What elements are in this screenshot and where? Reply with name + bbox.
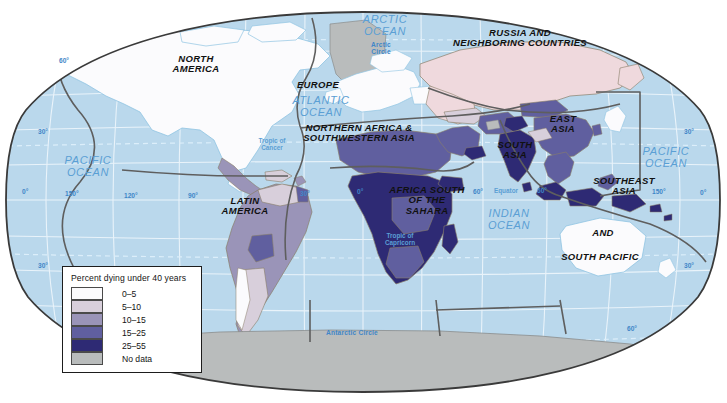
legend-item: 0–5 <box>71 287 194 300</box>
legend-item: No data <box>71 352 194 365</box>
legend-swatch <box>71 300 103 313</box>
legend-item: 25–55 <box>71 339 194 352</box>
legend-label: No data <box>122 354 152 364</box>
legend-label: 25–55 <box>122 341 146 351</box>
legend-swatch <box>71 326 103 339</box>
legend-item: 10–15 <box>71 313 194 326</box>
legend-swatch <box>71 352 103 365</box>
legend-swatch <box>71 339 103 352</box>
legend-item: 15–25 <box>71 326 194 339</box>
legend-swatch <box>71 287 103 300</box>
legend-label: 5–10 <box>122 302 141 312</box>
legend-label: 15–25 <box>122 328 146 338</box>
world-map-figure: NORTH AMERICALATIN AMERICAEUROPENORTHERN… <box>0 0 727 403</box>
legend-label: 0–5 <box>122 289 136 299</box>
legend-item: 5–10 <box>71 300 194 313</box>
legend-rows: 0–55–1010–1515–2525–55No data <box>71 287 194 365</box>
map-legend: Percent dying under 40 years 0–55–1010–1… <box>62 266 202 373</box>
legend-swatch <box>71 313 103 326</box>
legend-title: Percent dying under 40 years <box>71 273 194 283</box>
legend-label: 10–15 <box>122 315 146 325</box>
